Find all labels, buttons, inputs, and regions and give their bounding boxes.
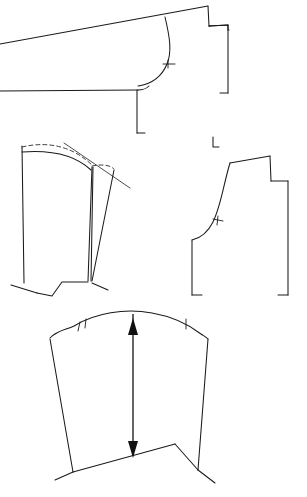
bodice-hem-right-tail [92, 283, 108, 290]
piece-left-bodice [11, 143, 130, 296]
pattern-drawing-canvas [0, 0, 307, 497]
piece-sleeve [50, 311, 215, 483]
sleeve-right-side-seam [198, 339, 208, 470]
right-panel-shoulder-edge [230, 156, 270, 163]
bodice-crossing-guide-line [64, 143, 130, 188]
piece-top-yoke [0, 6, 229, 133]
yoke-notch-icon [163, 60, 175, 68]
yoke-front-curve [138, 17, 170, 86]
bodice-right-side-seam [92, 170, 114, 281]
yoke-bottom-corner-curve [138, 86, 149, 90]
right-panel-step-vertical [270, 156, 271, 181]
bodice-left-vertical-edge [22, 146, 24, 283]
yoke-bottom-edge [0, 90, 138, 91]
sleeve-left-side-seam [50, 339, 73, 472]
sleeve-hem-right-tail [198, 470, 215, 483]
sleeve-hem-rising-edge [73, 444, 175, 472]
yoke-step-shelf [209, 25, 228, 26]
sleeve-grainline-arrowhead-bottom [128, 441, 138, 458]
sleeve-hem-left-tail [55, 472, 73, 480]
right-panel-armhole-curve [192, 163, 230, 240]
bodice-dashed-dart-leg [92, 165, 114, 169]
sleeve-grainline-arrowhead-top [128, 318, 138, 335]
yoke-top-diagonal-edge [0, 6, 208, 44]
bodice-hem-left-tail [11, 285, 37, 293]
sleeve-hem-falling-edge [175, 444, 198, 470]
bodice-hem-step [37, 282, 88, 296]
right-panel-registration-bracket [213, 137, 219, 147]
pattern-sheet: Garment Pattern Draft Sheet technical-pa… [0, 0, 307, 497]
piece-right-bodice [192, 137, 288, 295]
